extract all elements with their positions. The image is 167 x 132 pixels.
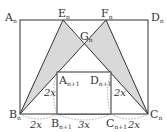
measure-left-bottom: 2x xyxy=(29,119,42,130)
label-Cn: Cn xyxy=(150,108,162,121)
label-Bn1: Bn+1 xyxy=(51,117,72,130)
geometry-diagram: An Dn Bn Cn En Fn Gn An+1 Dn+1 Bn+1 Cn+1… xyxy=(0,0,167,132)
label-Fn: Fn xyxy=(101,7,113,20)
label-En: En xyxy=(58,7,70,20)
measure-left-height: 2x xyxy=(43,87,56,98)
label-Gn: Gn xyxy=(80,30,93,43)
label-Bn: Bn xyxy=(9,108,21,121)
label-Dn: Dn xyxy=(151,11,164,24)
measure-right-height: 2x xyxy=(113,87,126,98)
label-Cn1: Cn+1 xyxy=(106,117,127,130)
label-An: An xyxy=(4,11,17,24)
measure-middle-bottom: 3x xyxy=(78,119,90,130)
measure-right-bottom: 2x xyxy=(127,119,140,130)
